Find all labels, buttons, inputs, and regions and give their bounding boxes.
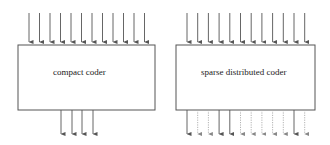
compact-coder-label: compact coder <box>53 67 106 77</box>
sparse-coder-inputs <box>187 13 305 42</box>
compact-coder-inputs <box>29 13 145 42</box>
compact-coder-group: compact coder <box>18 13 155 134</box>
sparse-coder-outputs <box>187 110 305 134</box>
sparse-coder-group: sparse distributed coder <box>176 13 315 134</box>
coder-diagram: compact coder sparse distributed coder <box>0 0 330 145</box>
sparse-coder-box <box>176 45 315 110</box>
compact-coder-box <box>18 45 155 110</box>
compact-coder-outputs <box>61 110 93 134</box>
sparse-coder-label: sparse distributed coder <box>201 67 286 77</box>
